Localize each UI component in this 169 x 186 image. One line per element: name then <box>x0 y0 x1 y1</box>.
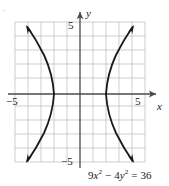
y-tick-label-negative-5: −5 <box>61 156 73 167</box>
hyperbola-figure: · −5 5 5 −5 x y 9x2 − 4y2 = 36 <box>0 0 169 186</box>
equation-label: 9x2 − 4y2 = 36 <box>88 169 152 181</box>
y-tick-label-5: 5 <box>68 20 74 31</box>
eq-minus: − <box>105 169 111 181</box>
eq-equals: = <box>131 169 137 181</box>
x-tick-label-negative-5: −5 <box>6 96 18 107</box>
y-axis-label: y <box>86 8 91 19</box>
corner-mark: · <box>2 6 5 15</box>
x-axis <box>8 91 156 98</box>
y-axis <box>77 12 84 168</box>
x-tick-label-5: 5 <box>135 96 141 107</box>
x-axis-label: x <box>157 101 162 112</box>
eq-exp-x: 2 <box>99 168 103 176</box>
eq-exp-y: 2 <box>125 168 129 176</box>
eq-rhs: 36 <box>140 169 151 181</box>
graph-canvas <box>0 0 169 186</box>
